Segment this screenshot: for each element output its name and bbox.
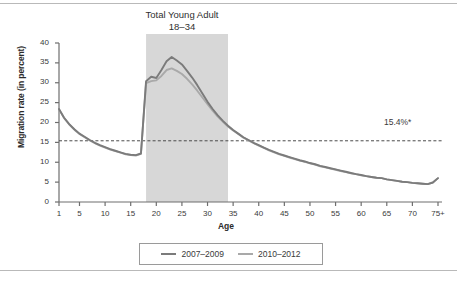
x-tick-label: 50 — [299, 209, 321, 218]
legend-label: 2010–2012 — [258, 249, 301, 259]
x-tick-label: 55 — [325, 209, 347, 218]
legend-line-icon — [161, 253, 176, 255]
x-tick-label: 20 — [145, 209, 167, 218]
legend-line-icon — [238, 253, 253, 255]
x-tick-label: 45 — [273, 209, 295, 218]
y-tick-label: 20 — [27, 117, 49, 126]
y-axis-title: Migration rate (in percent) — [16, 27, 26, 167]
y-tick-label: 35 — [27, 57, 49, 66]
x-tick-label: 15 — [120, 209, 142, 218]
figure-container: Total Young Adult 18–34 Migration rate (… — [0, 0, 457, 282]
young-adult-band — [146, 34, 228, 202]
legend-label: 2007–2009 — [181, 249, 224, 259]
x-tick-label: 35 — [222, 209, 244, 218]
x-tick-label: 75+ — [427, 209, 449, 218]
y-tick-label: 15 — [27, 137, 49, 146]
series-lines — [59, 57, 438, 184]
x-tick-label: 5 — [68, 209, 90, 218]
y-tick-label: 0 — [27, 197, 49, 206]
y-tick-label: 25 — [27, 97, 49, 106]
x-tick-label: 70 — [401, 209, 423, 218]
reference-line-label: 15.4%* — [384, 117, 411, 127]
x-tick-label: 1 — [48, 209, 70, 218]
x-tick-label: 60 — [350, 209, 372, 218]
y-tick-label: 10 — [27, 157, 49, 166]
chart-plot — [0, 0, 457, 282]
x-tick-label: 10 — [94, 209, 116, 218]
x-tick-label: 25 — [171, 209, 193, 218]
x-axis-title: Age — [186, 221, 266, 231]
x-tick-label: 40 — [248, 209, 270, 218]
legend: 2007–20092010–2012 — [139, 243, 323, 265]
y-tick-label: 5 — [27, 177, 49, 186]
y-tick-label: 30 — [27, 77, 49, 86]
y-tick-label: 40 — [27, 38, 49, 47]
x-tick-label: 30 — [197, 209, 219, 218]
legend-entry[interactable]: 2010–2012 — [238, 249, 301, 259]
x-tick-label: 65 — [376, 209, 398, 218]
legend-entry[interactable]: 2007–2009 — [161, 249, 224, 259]
